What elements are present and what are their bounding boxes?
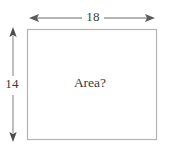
height-dimension-label: 14 (2, 77, 22, 91)
height-arrowhead-bottom-icon (9, 132, 16, 142)
width-dimension-label: 18 (83, 10, 103, 24)
geometry-figure: 18 14 Area? (0, 0, 172, 154)
area-question-label: Area? (57, 75, 123, 90)
height-arrowhead-top-icon (9, 27, 16, 37)
